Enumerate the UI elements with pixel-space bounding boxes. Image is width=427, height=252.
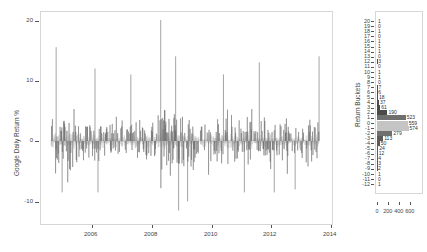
bucket-tick-mark [371,143,374,144]
y-tick-label: -10 [24,198,33,204]
y-tick-mark [35,202,39,203]
minor-returns [51,109,319,188]
bucket-tick-mark [371,72,374,73]
x-tick-mark [271,225,272,228]
count-tick-label: 0 [375,208,378,214]
bucket-tick-mark [371,113,374,114]
bucket-tick-mark [371,92,374,93]
bucket-tick-mark [371,108,374,109]
count-tick-mark [388,202,389,205]
bucket-count: 279 [393,130,401,136]
count-tick-label: 600 [405,208,414,214]
bucket-tick-mark [371,62,374,63]
bucket-count: 1 [378,181,381,187]
bucket-label: -12 [362,181,370,187]
y-tick-label: 10 [26,77,33,83]
count-tick-label: 200 [383,208,392,214]
y-tick-mark [35,21,39,22]
bucket-tick-mark [371,138,374,139]
bucket-tick-mark [371,77,374,78]
y-tick-label: 0 [30,137,33,143]
bucket-tick-mark [371,87,374,88]
bucket-tick-mark [371,118,374,119]
bucket-tick-mark [371,149,374,150]
bucket-tick-mark [371,154,374,155]
count-tick-mark [377,202,378,205]
bucket-tick-mark [371,31,374,32]
bucket-tick-mark [371,164,374,165]
bucket-tick-mark [371,133,374,134]
count-tick-mark [410,202,411,205]
histogram-y-axis-label: Return Buckets [354,83,361,127]
bucket-tick-mark [371,98,374,99]
x-tick-label: 2014 [323,231,336,237]
count-tick-mark [399,202,400,205]
bucket-tick-mark [371,174,374,175]
count-tick-label: 400 [394,208,403,214]
x-tick-label: 2008 [144,231,157,237]
major-returns [52,20,320,211]
bucket-tick-mark [371,26,374,27]
bucket-count: 61 [381,104,387,110]
bucket-tick-mark [371,82,374,83]
y-tick-mark [35,81,39,82]
x-tick-mark [152,225,153,228]
bucket-tick-mark [371,67,374,68]
x-tick-mark [212,225,213,228]
bucket-tick-mark [371,47,374,48]
bucket-tick-mark [371,36,374,37]
bucket-tick-mark [371,123,374,124]
x-tick-mark [331,225,332,228]
bucket-tick-mark [371,179,374,180]
y-tick-label: 20 [26,17,33,23]
y-tick-mark [35,141,39,142]
bucket-tick-mark [371,159,374,160]
x-tick-label: 2012 [263,231,276,237]
x-tick-label: 2006 [84,231,97,237]
main-y-axis-label: Google Daily Return % [13,110,20,176]
bucket-tick-mark [371,103,374,104]
bucket-tick-mark [371,128,374,129]
bucket-tick-mark [371,21,374,22]
bucket-count: 574 [410,125,418,131]
bucket-tick-mark [371,169,374,170]
bucket-tick-mark [371,57,374,58]
x-tick-mark [92,225,93,228]
bucket-tick-mark [371,52,374,53]
x-tick-label: 2010 [204,231,217,237]
bucket-tick-mark [371,41,374,42]
bucket-tick-mark [371,184,374,185]
bucket-count: 190 [388,109,396,115]
